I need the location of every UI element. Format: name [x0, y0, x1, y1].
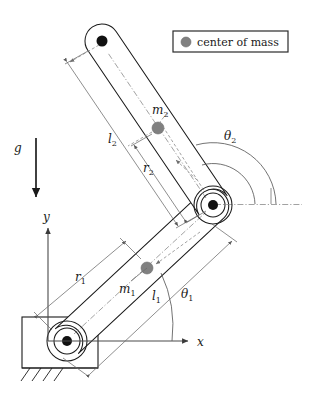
legend-label: center of mass	[197, 36, 279, 49]
kinematics-figure: g y x θ1 θ2	[0, 0, 317, 395]
r2-label: r2	[143, 161, 154, 177]
tip-joint	[97, 36, 108, 47]
r1-extension-com	[120, 238, 141, 259]
theta-2-label: θ2	[224, 129, 236, 145]
x-axis-label: x	[197, 335, 204, 349]
r1-label: r1	[75, 270, 86, 286]
theta-1-label: θ1	[181, 287, 193, 303]
l1-label: l1	[152, 289, 161, 305]
theta-1-arc	[161, 273, 173, 341]
elbow-joint-center	[208, 200, 218, 210]
center-of-mass-link-2	[152, 122, 164, 134]
diagram-canvas: g y x θ1 θ2	[0, 0, 317, 395]
tip-joint-center	[97, 36, 108, 47]
theta-1-annotation: θ1	[161, 273, 193, 341]
legend: center of mass	[173, 31, 288, 52]
legend-marker-icon	[181, 37, 191, 47]
y-axis-label: y	[42, 210, 50, 224]
l1-extension-elbow	[212, 224, 237, 242]
l2-extension-tip	[65, 51, 88, 64]
gravity-label: g	[14, 141, 22, 155]
